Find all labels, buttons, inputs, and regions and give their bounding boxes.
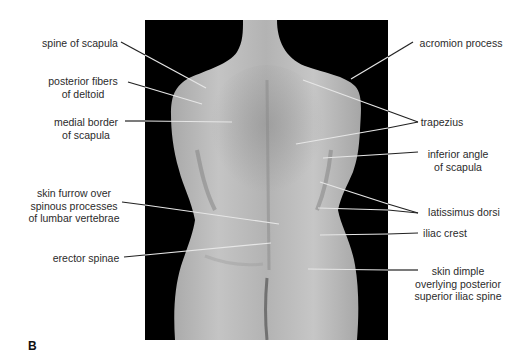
label-inferior-angle-of-scapula: inferior angle of scapula [418,148,498,173]
back-silhouette [145,20,388,340]
label-acromion-process: acromion process [415,37,507,50]
label-medial-border-of-scapula: medial border of scapula [48,116,124,141]
panel-letter: B [28,339,37,353]
label-skin-furrow: skin furrow over spinous processes of lu… [24,187,124,225]
label-posterior-fibers-of-deltoid: posterior fibers of deltoid [40,75,126,100]
label-erector-spinae: erector spinae [48,252,124,265]
label-latissimus-dorsi: latissimus dorsi [420,206,508,219]
label-skin-dimple: skin dimple overlying posterior superior… [408,265,508,303]
label-spine-of-scapula: spine of scapula [40,37,120,50]
label-iliac-crest: iliac crest [418,227,472,240]
label-trapezius: trapezius [420,116,464,129]
back-photograph [145,20,388,340]
anatomy-figure: spine of scapula posterior fibers of del… [0,0,529,359]
